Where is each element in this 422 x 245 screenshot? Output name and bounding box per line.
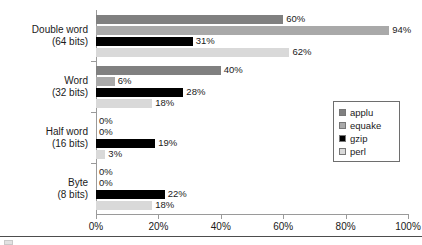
x-axis-tick (346, 214, 347, 219)
bar-value-label: 28% (186, 86, 205, 98)
category-label-line1: Half word (46, 126, 88, 137)
bar-gzip-2 (96, 88, 183, 97)
y-axis-tick (91, 61, 96, 62)
category-label-line1: Double word (32, 24, 88, 35)
bar-value-label: 31% (196, 35, 215, 47)
bar-gzip-4 (96, 190, 165, 199)
bar-chart: Double word(64 bits)Word(32 bits)Half wo… (0, 0, 422, 245)
y-axis-category-label: Half word(16 bits) (46, 126, 88, 150)
y-axis-category-label: Double word(64 bits) (32, 24, 88, 48)
bar-value-label: 18% (155, 199, 174, 211)
chart-legend: applu equake gzip perl (333, 101, 400, 162)
bar-applu-1 (96, 15, 283, 24)
legend-swatch-gzip (339, 135, 346, 142)
category-label-line2: (8 bits) (57, 189, 88, 201)
bar-perl-3 (96, 150, 105, 159)
y-axis-category-label: Word(32 bits) (52, 75, 88, 99)
bar-value-label: 94% (392, 24, 411, 36)
bar-value-label: 0% (99, 177, 113, 189)
bar-value-label: 40% (224, 64, 243, 76)
y-axis-tick (91, 112, 96, 113)
bar-equake-1 (96, 26, 389, 35)
x-axis-tick (221, 214, 222, 219)
bar-value-label: 60% (286, 13, 305, 25)
bar-value-label: 18% (155, 97, 174, 109)
category-label-line1: Word (64, 75, 88, 86)
page-corner-mark (4, 240, 13, 245)
legend-swatch-equake (339, 122, 346, 129)
x-axis-tick-label: 60% (273, 221, 293, 233)
page-divider-rule (0, 236, 422, 237)
x-axis-tick-label: 100% (395, 221, 421, 233)
legend-swatch-perl (339, 148, 346, 155)
x-axis-tick-label: 80% (336, 221, 356, 233)
category-label-line2: (32 bits) (52, 87, 88, 99)
y-axis-tick (91, 163, 96, 164)
legend-item-applu: applu (339, 106, 395, 118)
x-axis-tick (408, 214, 409, 219)
y-axis-category-label: Byte(8 bits) (57, 177, 88, 201)
bar-equake-2 (96, 77, 115, 86)
legend-label-gzip: gzip (350, 133, 367, 144)
legend-label-applu: applu (350, 107, 373, 118)
legend-item-equake: equake (339, 119, 395, 131)
bar-value-label: 0% (99, 126, 113, 138)
bar-value-label: 6% (118, 75, 132, 87)
x-axis-tick (96, 214, 97, 219)
bar-gzip-1 (96, 37, 193, 46)
category-label-line2: (64 bits) (32, 36, 88, 48)
legend-item-gzip: gzip (339, 132, 395, 144)
legend-label-perl: perl (350, 146, 366, 157)
bar-perl-2 (96, 99, 152, 108)
bar-perl-4 (96, 201, 152, 210)
legend-label-equake: equake (350, 120, 381, 131)
bar-applu-2 (96, 66, 221, 75)
bar-value-label: 19% (158, 137, 177, 149)
bar-gzip-3 (96, 139, 155, 148)
legend-swatch-applu (339, 109, 346, 116)
x-axis-tick-label: 0% (89, 221, 103, 233)
bar-perl-1 (96, 48, 289, 57)
x-axis-tick (283, 214, 284, 219)
x-axis-tick-label: 40% (211, 221, 231, 233)
x-axis-line (96, 214, 408, 215)
category-label-line1: Byte (68, 177, 88, 188)
legend-item-perl: perl (339, 145, 395, 157)
bar-value-label: 62% (292, 46, 311, 58)
x-axis-tick-label: 20% (148, 221, 168, 233)
x-axis-tick (158, 214, 159, 219)
bar-value-label: 3% (108, 148, 122, 160)
category-label-line2: (16 bits) (46, 138, 88, 150)
